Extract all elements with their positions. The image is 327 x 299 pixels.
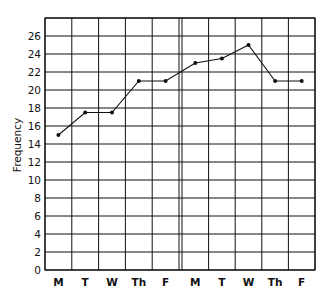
- data-point: [247, 43, 251, 47]
- x-axis-ticks: MTWThFMTWThF: [53, 276, 305, 288]
- y-tick-label: 12: [28, 156, 41, 168]
- y-tick-label: 14: [28, 138, 42, 150]
- data-point: [273, 79, 277, 83]
- data-point: [83, 111, 87, 115]
- y-tick-label: 0: [34, 264, 41, 276]
- data-point: [220, 57, 224, 61]
- y-tick-label: 8: [34, 192, 41, 204]
- y-tick-label: 18: [28, 102, 41, 114]
- data-point: [110, 111, 114, 115]
- x-tick-label: Th: [268, 276, 283, 288]
- data-point: [193, 61, 197, 65]
- x-tick-label: M: [53, 276, 63, 288]
- data-point: [300, 79, 304, 83]
- y-tick-label: 10: [28, 174, 41, 186]
- y-tick-label: 2: [34, 246, 41, 258]
- x-tick-label: W: [243, 276, 255, 288]
- data-point: [164, 79, 168, 83]
- x-tick-label: M: [190, 276, 200, 288]
- y-axis-label: Frequency: [11, 118, 23, 172]
- x-tick-label: T: [218, 276, 226, 288]
- grid: [45, 18, 315, 270]
- x-tick-label: W: [106, 276, 118, 288]
- y-tick-label: 4: [34, 228, 41, 240]
- x-tick-label: F: [298, 276, 305, 288]
- y-tick-label: 20: [28, 84, 41, 96]
- y-tick-label: 26: [28, 30, 42, 42]
- data-point: [56, 133, 60, 137]
- y-tick-label: 16: [28, 120, 42, 132]
- data-point: [137, 79, 141, 83]
- y-tick-label: 22: [28, 66, 41, 78]
- y-tick-label: 6: [34, 210, 41, 222]
- x-tick-label: Th: [131, 276, 146, 288]
- y-tick-label: 24: [28, 48, 42, 60]
- x-tick-label: T: [82, 276, 90, 288]
- y-axis-ticks: 02468101214161820222426: [28, 30, 42, 276]
- x-tick-label: F: [162, 276, 169, 288]
- frequency-line-chart: 02468101214161820222426 MTWThFMTWThF Fre…: [0, 0, 327, 299]
